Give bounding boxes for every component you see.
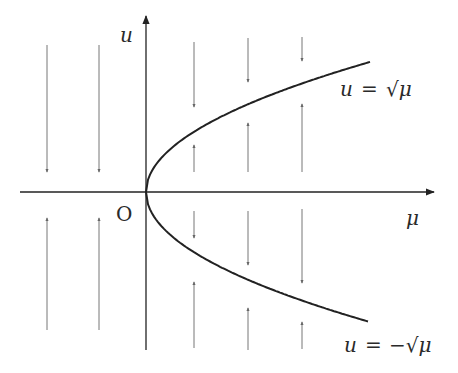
upper-branch-label: u = √μ [340, 77, 412, 101]
lower-branch-var: u [344, 333, 357, 357]
mu-axis-label: μ [406, 206, 419, 230]
lower-branch-label: u = −√μ [344, 333, 432, 357]
flow-arrows [47, 37, 302, 350]
lower-branch-eq: = [365, 333, 382, 357]
origin-label: O [116, 202, 132, 226]
u-axis-label: u [120, 23, 133, 47]
upper-branch-expr: √μ [386, 77, 412, 101]
upper-branch-var: u [340, 77, 353, 101]
lower-branch-expr: −√μ [389, 333, 432, 357]
upper-branch-eq: = [361, 77, 378, 101]
bifurcation-diagram: u μ O u = √μ u = −√μ [0, 0, 458, 373]
